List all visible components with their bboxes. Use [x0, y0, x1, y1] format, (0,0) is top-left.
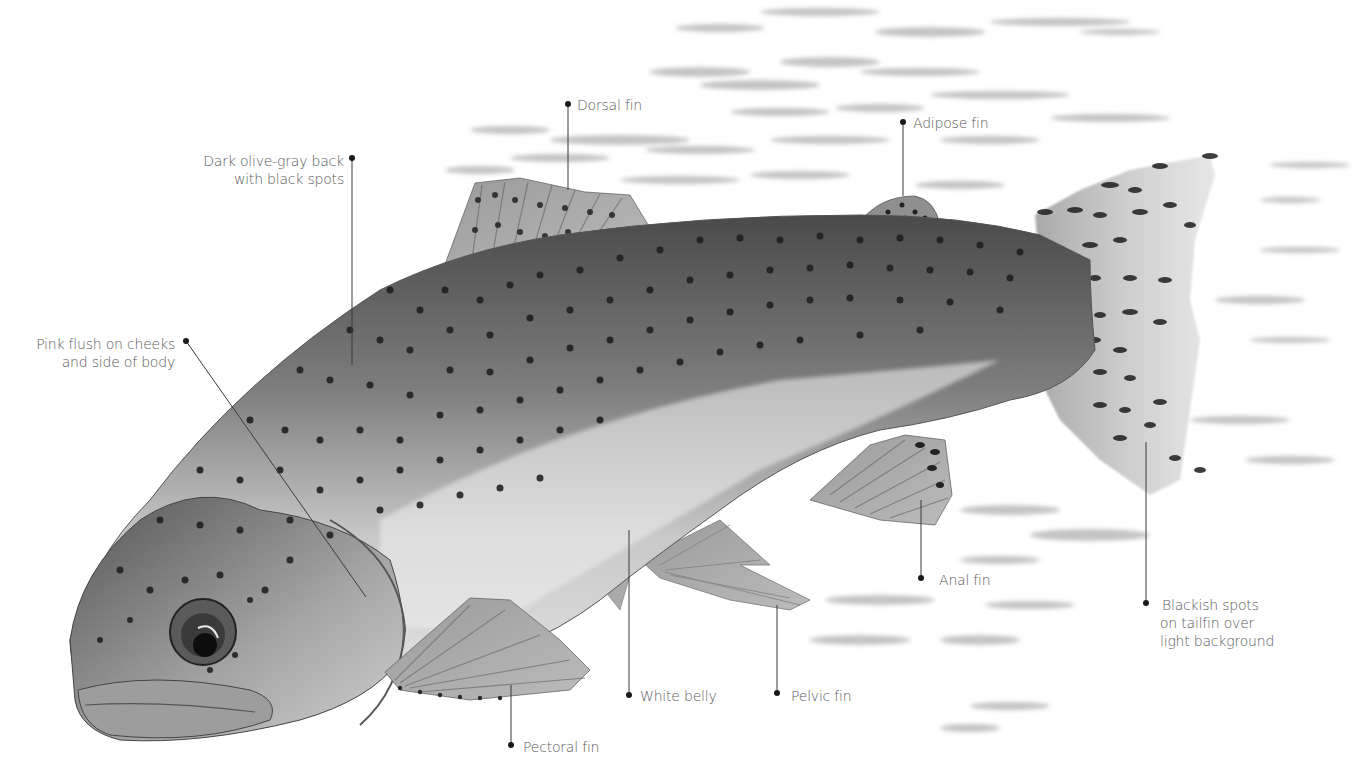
trout-diagram: Dorsal fin Adipose fin Dark olive-gray b…: [0, 0, 1361, 773]
label-tail-line3: light background: [1160, 632, 1274, 650]
anal-fin: [810, 435, 952, 525]
label-tail-line1: Blackish spots: [1160, 596, 1274, 614]
label-pelvic-fin: Pelvic fin: [791, 687, 851, 705]
label-back-line1: Dark olive-gray back: [176, 152, 344, 170]
label-pink-line2: and side of body: [0, 353, 175, 371]
label-tail-line2: on tailfin over: [1160, 614, 1274, 632]
label-tail-spots: Blackish spots on tailfin over light bac…: [1160, 596, 1274, 650]
label-anal-fin: Anal fin: [939, 571, 990, 589]
eye: [170, 599, 236, 665]
label-adipose-fin: Adipose fin: [913, 114, 988, 132]
label-white-belly: White belly: [640, 687, 717, 705]
trout-illustration: [0, 0, 1361, 773]
label-pink-line1: Pink flush on cheeks: [0, 335, 175, 353]
label-pink-flush: Pink flush on cheeks and side of body: [0, 335, 175, 371]
label-back: Dark olive-gray back with black spots: [176, 152, 344, 188]
label-pectoral-fin: Pectoral fin: [523, 738, 599, 756]
label-back-line2: with black spots: [176, 170, 344, 188]
label-dorsal-fin: Dorsal fin: [577, 96, 642, 114]
